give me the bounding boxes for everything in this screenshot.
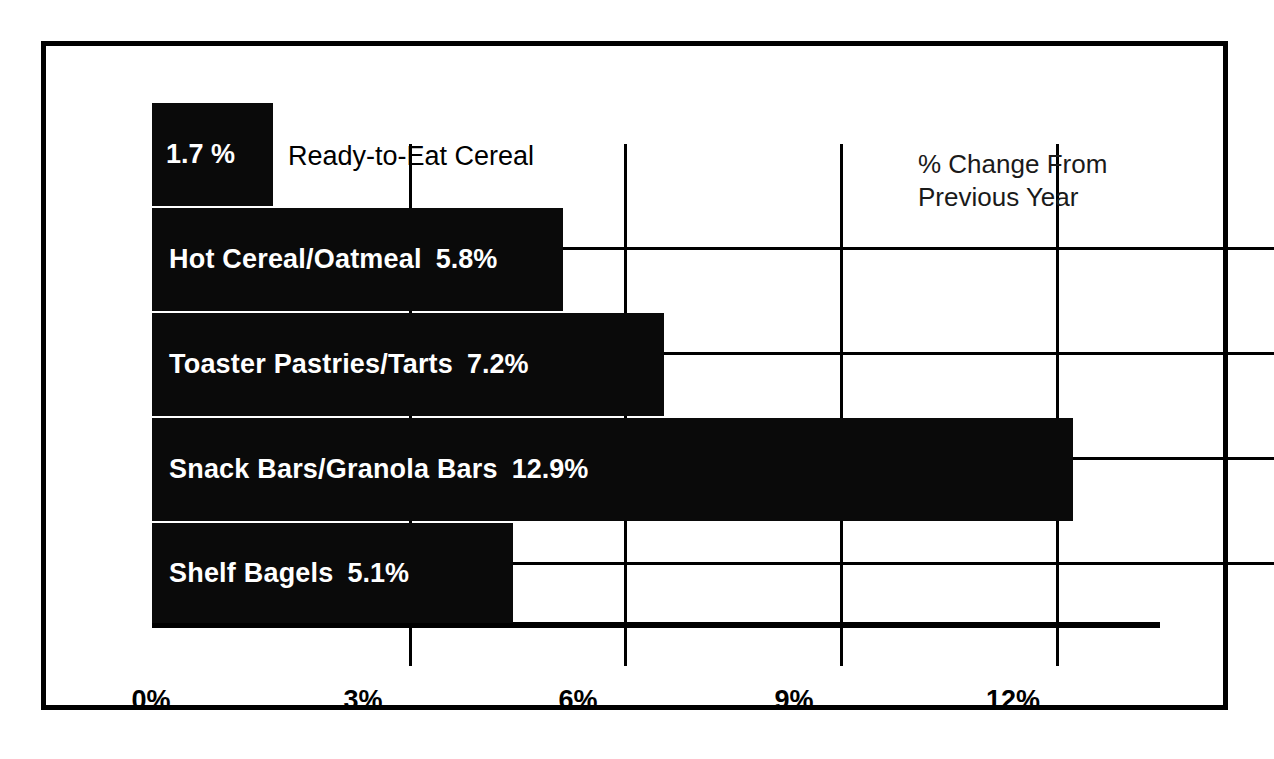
- bar-ready-to-eat-cereal: 1.7 %: [152, 103, 273, 206]
- chart-page: % Change From Previous Year 1.7 % Ready-…: [0, 0, 1274, 759]
- bar-hot-cereal-oatmeal: Hot Cereal/Oatmeal 5.8%: [152, 208, 563, 311]
- bar-label-toaster-pastries-tarts: Toaster Pastries/Tarts: [152, 349, 453, 380]
- x-tick-label-9: 9%: [734, 685, 854, 716]
- bar-value-shelf-bagels: 5.1%: [333, 558, 409, 589]
- bar-value-hot-cereal-oatmeal: 5.8%: [422, 244, 498, 275]
- bar-label-shelf-bagels: Shelf Bagels: [152, 558, 333, 589]
- chart-title-annotation: % Change From Previous Year: [918, 148, 1107, 213]
- x-tick-label-3: 3%: [303, 685, 423, 716]
- bar-label-ready-to-eat-cereal: Ready-to-Eat Cereal: [288, 141, 534, 172]
- bar-label-hot-cereal-oatmeal: Hot Cereal/Oatmeal: [152, 244, 422, 275]
- chart-frame: % Change From Previous Year 1.7 % Ready-…: [41, 41, 1228, 710]
- x-tick-label-12: 12%: [953, 685, 1073, 716]
- gridline-9-percent: [840, 144, 843, 666]
- bar-value-snack-bars-granola-bars: 12.9%: [498, 454, 589, 485]
- bar-snack-bars-granola-bars: Snack Bars/Granola Bars 12.9%: [152, 418, 1073, 521]
- bar-value-ready-to-eat-cereal: 1.7 %: [152, 139, 235, 170]
- x-tick-label-0: 0%: [91, 685, 211, 716]
- x-tick-label-6: 6%: [518, 685, 638, 716]
- gridline-12-percent: [1056, 144, 1059, 666]
- bar-shelf-bagels: Shelf Bagels 5.1%: [152, 523, 513, 623]
- bar-toaster-pastries-tarts: Toaster Pastries/Tarts 7.2%: [152, 313, 664, 416]
- bar-value-toaster-pastries-tarts: 7.2%: [453, 349, 529, 380]
- bar-label-snack-bars-granola-bars: Snack Bars/Granola Bars: [152, 454, 498, 485]
